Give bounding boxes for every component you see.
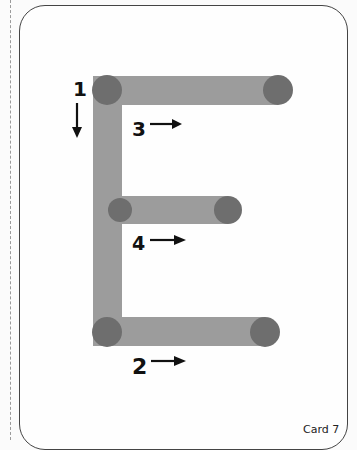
stroke-bar-4-middle [120, 196, 228, 224]
end-dot-3[interactable] [263, 75, 293, 105]
arrow-right-icon [150, 235, 186, 245]
stroke-label-3: 3 [132, 117, 146, 141]
start-dot-4[interactable] [108, 198, 132, 222]
start-dot-1-3[interactable] [92, 75, 122, 105]
arrow-down-icon [72, 103, 82, 138]
arrow-right-icon [150, 119, 182, 129]
start-dot-2[interactable] [92, 317, 122, 347]
end-dot-2[interactable] [250, 317, 280, 347]
stroke-label-1: 1 [73, 77, 87, 101]
arrow-right-icon [151, 356, 186, 366]
stroke-label-2: 2 [132, 354, 147, 379]
stroke-label-4: 4 [132, 232, 145, 254]
card-number-label: Card 7 [303, 423, 339, 436]
end-dot-4[interactable] [214, 196, 242, 224]
